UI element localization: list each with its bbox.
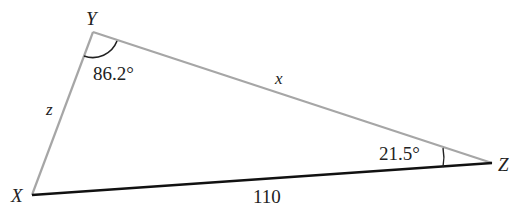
side-label-x: x bbox=[275, 70, 283, 87]
side-yz bbox=[93, 32, 492, 163]
angle-arc-z bbox=[443, 148, 444, 167]
vertex-label-x: X bbox=[11, 186, 23, 205]
triangle-diagram: Y X Z 86.2° 21.5° z x 110 bbox=[0, 0, 517, 209]
angle-label-y: 86.2° bbox=[93, 64, 134, 83]
angle-label-z: 21.5° bbox=[379, 144, 420, 163]
vertex-label-z: Z bbox=[498, 155, 509, 174]
triangle-figure bbox=[0, 0, 517, 209]
vertex-label-y: Y bbox=[86, 9, 97, 28]
side-label-110: 110 bbox=[253, 187, 281, 206]
side-label-z: z bbox=[46, 101, 53, 118]
